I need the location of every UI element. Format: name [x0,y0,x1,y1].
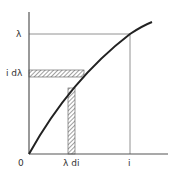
x-label-i: i [128,158,131,168]
x-label-lambda-di: λ di [63,158,79,168]
curve [29,22,152,154]
y-label-lambda: λ [16,29,22,39]
diagram-canvas: λ i dλ 0 λ di i [0,0,175,175]
x-label-origin: 0 [18,158,24,168]
y-label-i-dlambda: i dλ [6,68,23,78]
horizontal-hatched-strip [29,70,84,77]
vertical-hatched-strip [68,88,75,154]
